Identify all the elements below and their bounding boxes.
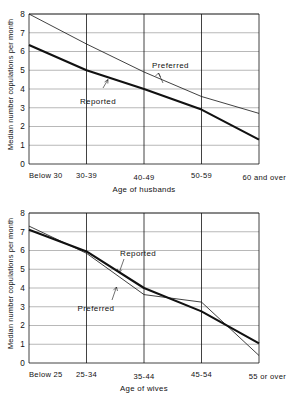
- y-tick-4: 4: [20, 85, 25, 94]
- y-tick-8: 8: [20, 10, 25, 19]
- y-tick-3: 3: [20, 303, 25, 312]
- chart-husbands-svg: Median number copulations per month 0 1 …: [0, 0, 290, 198]
- x-axis-title: Age of wives: [120, 384, 168, 393]
- x-cat-4: 55 or over: [249, 372, 286, 381]
- y-tick-labels: 0 1 2 3 4 5 6 7 8: [20, 209, 25, 368]
- y-tick-5: 5: [20, 265, 25, 274]
- x-cat-0: Below 25: [29, 370, 63, 379]
- y-tick-6: 6: [20, 47, 25, 56]
- x-axis-title: Age of husbands: [112, 185, 175, 194]
- y-tick-6: 6: [20, 246, 25, 255]
- chart-wives-svg: Median number copulations per month 0 1 …: [0, 199, 290, 397]
- x-cat-1: 30-39: [76, 171, 97, 180]
- y-tick-labels: 0 1 2 3 4 5 6 7 8: [20, 10, 25, 169]
- x-cat-2: 35-44: [134, 372, 155, 381]
- chart-husbands: Median number copulations per month 0 1 …: [0, 0, 290, 198]
- x-cat-4: 60 and over: [243, 173, 287, 182]
- y-tick-5: 5: [20, 66, 25, 75]
- series-label-reported: Reported: [120, 249, 156, 258]
- y-axis-title: Median number copulations per month: [6, 19, 15, 150]
- series-label-reported: Reported: [80, 97, 116, 106]
- series-label-preferred: Preferred: [78, 304, 115, 313]
- x-category-labels: Below 25 25-34 35-44 45-54 55 or over: [29, 370, 286, 381]
- y-tick-7: 7: [20, 228, 25, 237]
- y-tick-2: 2: [20, 122, 25, 131]
- y-tick-2: 2: [20, 321, 25, 330]
- y-tick-3: 3: [20, 104, 25, 113]
- y-tick-0: 0: [20, 160, 25, 169]
- x-cat-1: 25-34: [76, 370, 97, 379]
- y-tick-1: 1: [20, 141, 25, 150]
- y-tick-1: 1: [20, 340, 25, 349]
- x-cat-3: 45-54: [191, 370, 212, 379]
- x-cat-0: Below 30: [29, 171, 63, 180]
- x-cat-2: 40-49: [134, 173, 155, 182]
- y-tick-0: 0: [20, 359, 25, 368]
- annotation-leaders: [112, 259, 124, 300]
- series-label-preferred: Preferred: [152, 61, 189, 70]
- y-tick-4: 4: [20, 284, 25, 293]
- x-category-labels: Below 30 30-39 40-49 50-59 60 and over: [29, 171, 286, 182]
- chart-wives: Median number copulations per month 0 1 …: [0, 199, 290, 397]
- y-tick-8: 8: [20, 209, 25, 218]
- y-tick-7: 7: [20, 29, 25, 38]
- y-axis-title: Median number copulations per month: [6, 218, 15, 349]
- x-cat-3: 50-59: [191, 171, 212, 180]
